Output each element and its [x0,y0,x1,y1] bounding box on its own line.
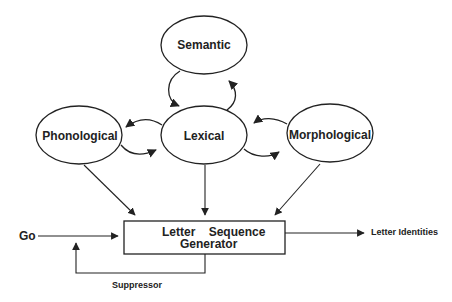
letter-identities-label: Letter Identities [371,227,438,237]
go-label: Go [19,229,36,243]
morphological-to-lexical-arrow [254,119,287,124]
phonological-label: Phonological [42,129,117,143]
phonological-to-lexical-arrow [121,145,156,154]
lexical-to-phonological-arrow [126,120,162,127]
suppressor-label: Suppressor [112,280,162,290]
semantic-label: Semantic [177,38,230,52]
morphological-to-generator-arrow [275,164,320,215]
morphological-label: Morphological [289,128,371,142]
generator-label-line2: Generator [180,237,237,251]
lexical-to-morphological-arrow [244,149,279,156]
phonological-to-generator-arrow [84,165,135,215]
semantic-to-lexical-arrow [169,71,180,106]
lexical-label: Lexical [184,129,225,143]
lexical-to-semantic-arrow [227,81,236,110]
